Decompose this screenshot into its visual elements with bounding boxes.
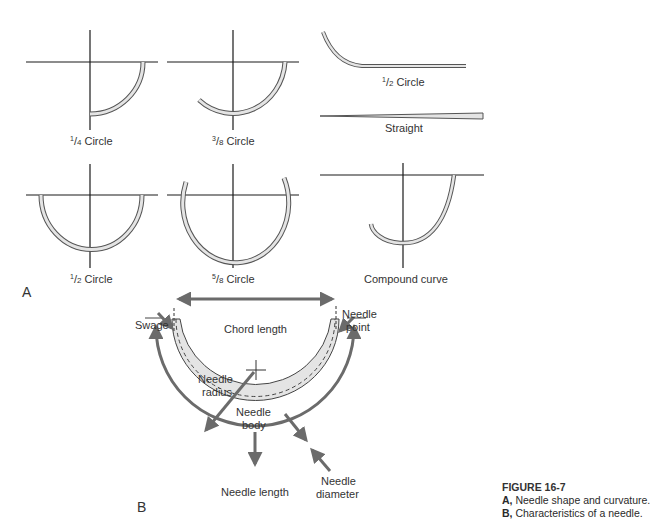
needle-body-label: Needle: [236, 406, 271, 418]
quarter-circle-label: 1/4 Circle: [70, 135, 113, 147]
chord-length-label: Chord length: [224, 323, 287, 335]
needle-point-label-line2: point: [346, 321, 370, 333]
figure-number: FIGURE 16-7: [502, 481, 650, 494]
straight-needle: Straight: [320, 113, 483, 134]
half-circle-label: 1/2 Circle: [70, 273, 113, 285]
needle-point-label: Needle: [342, 308, 377, 320]
panel-a-label: A: [22, 284, 32, 300]
needle-body-label-line2: body: [242, 419, 266, 431]
panel-b-label: B: [137, 499, 146, 515]
half-circle-ski-label: 1/2 Circle: [382, 76, 425, 88]
caption-b-text: Characteristics of a needle.: [513, 507, 643, 519]
quarter-circle-diagram: 1/4 Circle: [26, 30, 158, 147]
compound-curve-label: Compound curve: [364, 273, 448, 285]
five-eighths-circle-diagram: 5/8 Circle: [167, 164, 299, 285]
figure-caption: FIGURE 16-7 A, Needle shape and curvatur…: [502, 481, 650, 520]
caption-a-key: A,: [502, 494, 513, 506]
three-eighths-circle-diagram: 3/8 Circle: [167, 30, 299, 147]
needle-figure: 1/4 Circle 3/8 Circle 1/2 Circle Straigh…: [0, 0, 668, 530]
caption-line-b: B, Characteristics of a needle.: [502, 507, 650, 520]
caption-a-text: Needle shape and curvature.: [513, 494, 651, 506]
needle-radius-label: Needle: [198, 373, 233, 385]
needle-diameter-label-line2: diameter: [316, 488, 359, 500]
needle-length-label: Needle length: [221, 486, 289, 498]
needle-radius-label-line2: radius: [202, 386, 232, 398]
half-circle-ski-needle: 1/2 Circle: [323, 32, 466, 88]
straight-label: Straight: [385, 122, 423, 134]
five-eighths-circle-label: 5/8 Circle: [212, 273, 255, 285]
three-eighths-circle-label: 3/8 Circle: [212, 135, 255, 147]
compound-curve-diagram: Compound curve: [320, 163, 484, 285]
swage-label: Swage: [135, 319, 169, 331]
half-circle-diagram: 1/2 Circle: [26, 164, 158, 285]
needle-diameter-label: Needle: [321, 475, 356, 487]
needle-characteristics-diagram: Swage Chord length Needle point Needle r…: [135, 299, 377, 500]
caption-line-a: A, Needle shape and curvature.: [502, 494, 650, 507]
caption-b-key: B,: [502, 507, 513, 519]
